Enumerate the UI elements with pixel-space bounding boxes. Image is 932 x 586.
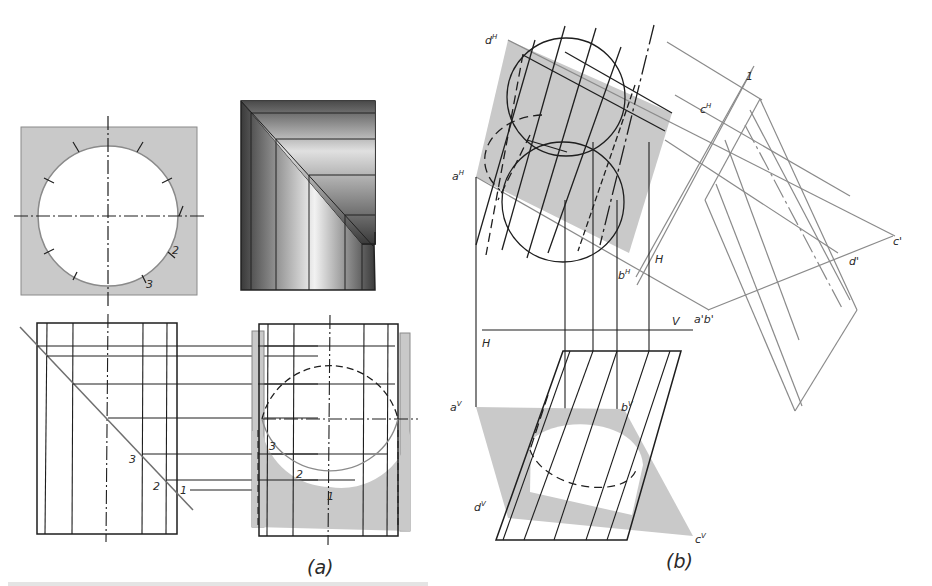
label-c-prime: c' [893,235,902,248]
side-view-label-2: 2 [296,468,303,481]
top-view: 2 3 [14,116,205,306]
panel-b: dH aH cH bH H c' d' a'b' 1 V H aV bV dV … [450,25,902,572]
top-view-label-2: 2 [172,244,179,257]
label-bV: bV [621,400,634,414]
caption-a: (a) [307,556,333,578]
label-d-prime: d' [849,255,859,268]
front-view-label-1: 1 [180,484,187,497]
front-view-label-2: 2 [153,480,160,493]
front-view-label-3: 3 [129,453,136,466]
label-aV: aV [450,400,463,414]
cropped-caption-strip [8,582,428,586]
side-view-label-1: 1 [327,490,334,503]
label-cV: cV [695,532,707,546]
label-H-upper: H [655,253,663,266]
top-view-label-3: 3 [146,278,153,291]
label-bH: bH [618,268,631,282]
side-view-label-3: 3 [269,440,276,453]
label-dH: dH [485,33,498,47]
panel-a: 2 3 [14,101,418,578]
label-aH: aH [452,169,465,183]
label-fold-1: 1 [746,70,753,83]
technical-drawing: 2 3 [0,0,932,586]
label-cH: cH [700,102,712,116]
side-view: 3 2 1 [252,315,418,545]
caption-b: (b) [666,550,693,572]
label-ab-prime: a'b' [694,313,714,326]
cylinder-front-view [476,351,693,540]
label-V: V [672,315,681,328]
label-dV: dV [474,500,487,514]
elbow-render [241,101,375,290]
label-H-lower: H [482,337,490,350]
